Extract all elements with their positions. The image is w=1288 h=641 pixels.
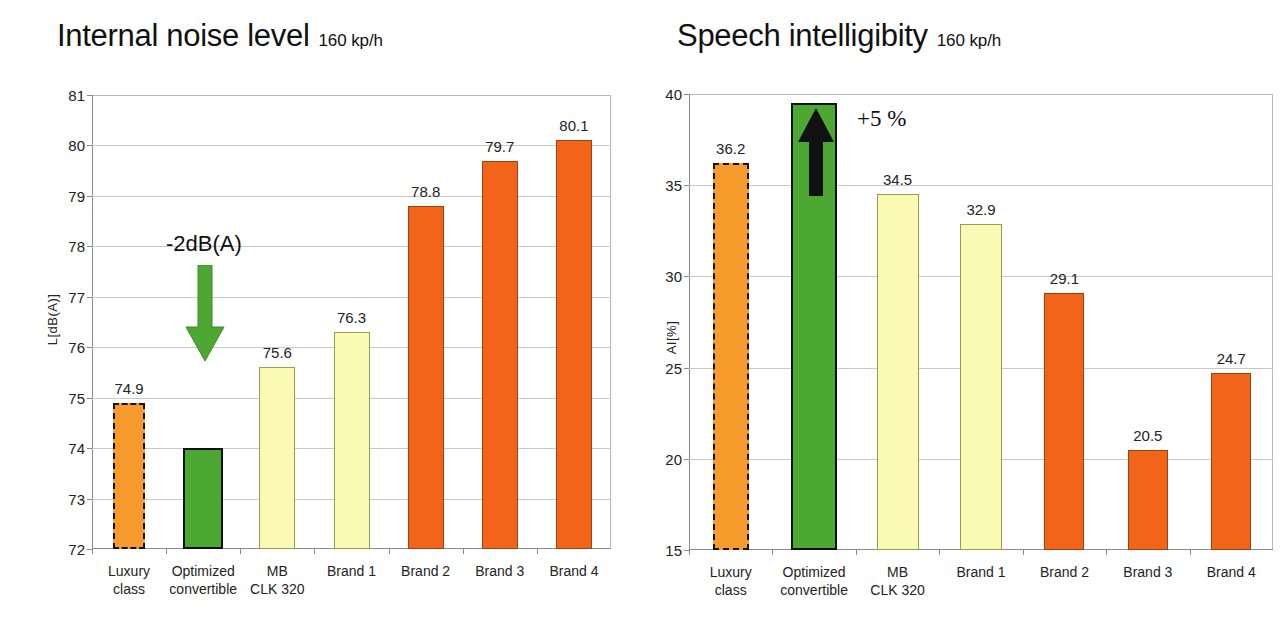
gridline [92,196,611,197]
bar-pale-3 [960,224,1002,550]
bar-value-label: 78.8 [411,183,440,200]
y-tick-label: 79 [68,187,85,204]
bar-value-label: 75.6 [263,344,292,361]
bar-pale-2 [877,194,919,550]
x-tick-mark [314,549,315,554]
bar-value-label: 29.1 [1050,270,1079,287]
x-category-label: Brand 4 [549,562,598,580]
bar-value-label: 20.5 [1133,427,1162,444]
y-axis-label-internal-noise: L[dB(A)] [45,265,60,375]
x-tick-mark [166,549,167,554]
x-category-label: Brand 4 [1207,563,1256,581]
x-tick-mark [856,550,857,555]
y-tick-label: 73 [68,490,85,507]
chart-title-main: Speech intelligibity [677,18,928,53]
bar-value-label: 24.7 [1217,350,1246,367]
x-category-label: Brand 1 [956,563,1005,581]
y-tick-mark [684,276,689,277]
chart-title-internal-noise: Internal noise level160 kp/h [57,18,383,54]
y-tick-label: 80 [68,137,85,154]
x-category-label: Brand 3 [1123,563,1172,581]
y-tick-mark [684,94,689,95]
y-tick-mark [87,95,92,96]
x-tick-mark [240,549,241,554]
x-category-label: Brand 3 [475,562,524,580]
x-tick-mark [1106,550,1107,555]
y-tick-mark [684,368,689,369]
arrow-down-icon [183,265,227,363]
x-category-label: Luxury class [710,563,752,600]
bar-deep-6 [556,140,592,549]
x-tick-mark [389,549,390,554]
x-tick-mark [463,549,464,554]
chart-title-main: Internal noise level [57,18,310,53]
bar-orange-dash-0 [113,403,145,549]
y-tick-label: 74 [68,440,85,457]
y-axis-line [92,95,93,549]
annotation-label-plus-5-percent: +5 % [857,106,906,132]
y-tick-mark [87,297,92,298]
chart-title-subtitle: 160 kp/h [319,31,383,50]
gridline [92,297,611,298]
x-category-label: Optimized convertible [780,563,848,600]
x-tick-mark [772,550,773,555]
y-tick-mark [87,145,92,146]
gridline [689,185,1273,186]
bar-value-label: 79.7 [485,138,514,155]
y-tick-mark [684,185,689,186]
x-tick-mark [689,550,690,555]
y-axis-line [689,94,690,550]
plot-area-internal-noise: 72737475767778798081 74.975.676.378.879.… [92,95,611,549]
y-tick-label: 40 [665,86,682,103]
bar-pale-3 [334,332,370,549]
x-tick-mark [939,550,940,555]
bar-green-solid-1 [183,448,223,549]
x-category-label: MB CLK 320 [250,562,304,599]
chart-sheet: Internal noise level160 kp/h 72737475767… [0,0,1288,641]
y-tick-label: 15 [665,542,682,559]
chart-panel-internal-noise: Internal noise level160 kp/h 72737475767… [0,0,644,641]
y-tick-mark [87,499,92,500]
bar-deep-6 [1211,373,1251,550]
chart-panel-speech-intelligibility: Speech intelligibity160 kp/h 15202530354… [644,0,1288,641]
y-axis-label-speech-intelligibility: AI[%] [664,283,679,393]
bar-value-label: 34.5 [883,171,912,188]
bar-orange-dash-0 [713,163,749,550]
y-tick-label: 81 [68,87,85,104]
bar-value-label: 80.1 [559,117,588,134]
plot-area-speech-intelligibility: 152025303540 36.234.532.929.120.524.7 +5… [689,94,1273,550]
x-category-label: Optimized convertible [169,562,237,599]
arrow-up-icon [795,106,837,198]
x-tick-mark [537,549,538,554]
chart-title-subtitle: 160 kp/h [937,31,1001,50]
x-tick-mark [92,549,93,554]
x-category-label: Luxury class [108,562,150,599]
bar-value-label: 36.2 [716,140,745,157]
bar-value-label: 76.3 [337,309,366,326]
x-category-label: Brand 2 [401,562,450,580]
y-tick-mark [684,459,689,460]
gridline [92,145,611,146]
y-tick-mark [87,196,92,197]
x-tick-mark [1190,550,1191,555]
x-category-label: MB CLK 320 [870,563,924,600]
y-tick-mark [87,347,92,348]
annotation-label-minus-2db: -2dB(A) [166,231,242,257]
y-tick-label: 78 [68,238,85,255]
y-tick-label: 35 [665,177,682,194]
y-tick-mark [87,398,92,399]
y-tick-label: 75 [68,389,85,406]
bar-deep-5 [482,161,518,549]
y-tick-label: 77 [68,288,85,305]
y-tick-mark [87,448,92,449]
y-tick-label: 72 [68,541,85,558]
x-category-label: Brand 2 [1040,563,1089,581]
y-tick-mark [87,246,92,247]
y-tick-label: 20 [665,450,682,467]
y-tick-label: 76 [68,339,85,356]
x-tick-mark [1023,550,1024,555]
bar-deep-5 [1128,450,1168,550]
x-category-label: Brand 1 [327,562,376,580]
bar-deep-4 [408,206,444,549]
bar-pale-2 [259,367,295,549]
